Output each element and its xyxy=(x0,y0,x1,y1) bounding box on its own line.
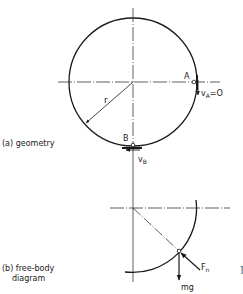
geometry-caption: (a) geometry xyxy=(2,139,55,148)
velocity-b-label: vB xyxy=(138,155,147,165)
point-a-marker xyxy=(192,80,196,84)
point-a-label: A xyxy=(184,72,190,81)
fbd-caption-line1: (b) free-body xyxy=(2,264,55,273)
weight-label: mg xyxy=(181,283,194,292)
geometry-diagram: r A vA=O B vB (a) geometry xyxy=(2,8,223,165)
fbd-mass-point xyxy=(177,249,181,253)
point-b-label: B xyxy=(123,134,129,143)
fbd-caption-line2: diagram xyxy=(12,274,45,283)
fbd-radius-line xyxy=(133,208,178,250)
normal-force-label: Fn xyxy=(201,263,210,273)
mechanics-diagram: r A vA=O B vB (a) geometry Fn mg ] (b) f… xyxy=(0,0,243,294)
point-b-marker xyxy=(131,143,135,147)
free-body-diagram: Fn mg ] (b) free-body diagram xyxy=(2,150,243,292)
bracket-mark: ] xyxy=(240,266,243,275)
radius-arrow xyxy=(86,82,133,123)
normal-force-arrow xyxy=(181,253,200,270)
velocity-a-label: vA=O xyxy=(201,89,223,99)
radius-label: r xyxy=(104,95,108,105)
